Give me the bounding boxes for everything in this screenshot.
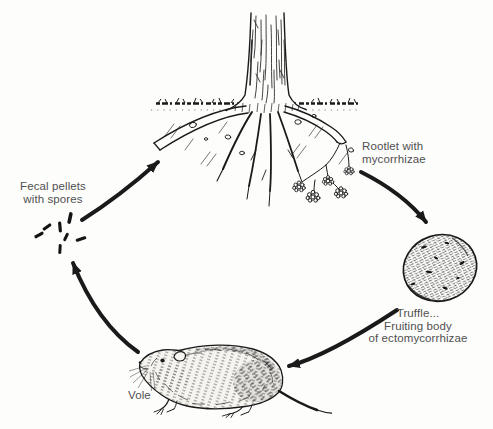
vole-label-text: Vole xyxy=(128,389,151,401)
arrow-pellets-to-roots xyxy=(82,162,158,220)
arrow-rootlet-to-truffle xyxy=(361,172,426,222)
vole-illustration xyxy=(129,342,335,418)
fecal-pellets-label-line1: Fecal pellets xyxy=(20,180,86,192)
tree-roots-illustration xyxy=(154,106,354,206)
truffle-label: Truffle... Fruiting body of ectomycorrhi… xyxy=(362,307,474,345)
arrow-vole-to-pellets xyxy=(73,263,138,352)
vole-label: Vole xyxy=(128,389,151,402)
truffle-label-line3: of ectomycorrhizae xyxy=(369,332,468,344)
rootlet-label-line1: Rootlet with xyxy=(362,140,423,152)
fecal-pellets-illustration xyxy=(34,212,87,254)
fecal-pellets-label-line2: with spores xyxy=(23,193,82,205)
truffle-illustration xyxy=(395,225,486,311)
fecal-pellets-label: Fecal pellets with spores xyxy=(14,180,92,205)
rootlet-label: Rootlet with mycorrhizae xyxy=(362,140,426,165)
diagram-canvas xyxy=(0,0,493,429)
rootlet-label-line2: mycorrhizae xyxy=(362,153,426,165)
mycorrhizal-cycle-diagram: Fecal pellets with spores Rootlet with m… xyxy=(0,0,493,429)
tree-trunk-illustration xyxy=(225,12,306,114)
truffle-label-line1: Truffle... xyxy=(397,307,440,319)
truffle-label-line2: Fruiting body xyxy=(384,320,452,332)
